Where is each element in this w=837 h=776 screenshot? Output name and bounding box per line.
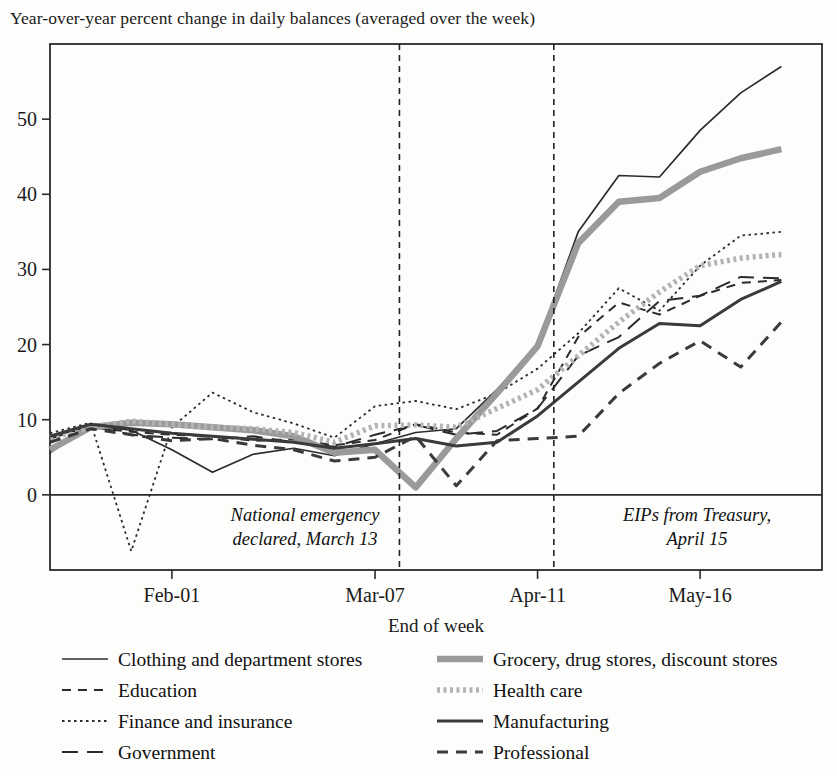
x-tick-label: Apr-11: [509, 584, 566, 607]
legend-label: Grocery, drug stores, discount stores: [493, 649, 778, 670]
event-lines-layer: [399, 44, 553, 570]
annotations-layer: National emergencydeclared, March 13EIPs…: [230, 505, 772, 549]
y-tick-label: 10: [17, 409, 37, 431]
annotation-line2: declared, March 13: [232, 529, 377, 549]
y-tick-label: 40: [17, 183, 37, 205]
series-line: [50, 232, 781, 551]
legend-label: Manufacturing: [493, 711, 609, 732]
legend-label: Health care: [493, 680, 582, 701]
y-tick-label: 30: [17, 258, 37, 280]
y-tick-label: 20: [17, 334, 37, 356]
legend-item[interactable]: Manufacturing: [437, 711, 609, 732]
legend-item[interactable]: Finance and insurance: [62, 711, 292, 732]
series-layer: [50, 67, 781, 552]
legend-label: Government: [118, 742, 216, 763]
legend-item[interactable]: Clothing and department stores: [62, 649, 362, 670]
legend-item[interactable]: Grocery, drug stores, discount stores: [437, 649, 778, 670]
legend-label: Education: [118, 680, 197, 701]
annotation-line1: EIPs from Treasury,: [622, 505, 771, 525]
y-tick-label: 0: [27, 484, 37, 506]
legend-item[interactable]: Health care: [437, 680, 582, 701]
x-tick-label: Mar-07: [345, 584, 405, 606]
x-tick-label: Feb-01: [144, 584, 201, 606]
plot-frame: [50, 44, 822, 570]
series-line: [50, 322, 781, 486]
line-chart: 01020304050Feb-01Mar-07Apr-11May-16End o…: [0, 0, 837, 776]
x-axis-label: End of week: [388, 615, 485, 636]
annotation-line2: April 15: [664, 529, 727, 549]
legend-item[interactable]: Education: [62, 680, 197, 701]
legend-label: Clothing and department stores: [118, 649, 362, 670]
legend-label: Finance and insurance: [118, 711, 292, 732]
legend-label: Professional: [493, 742, 590, 763]
x-tick-label: May-16: [668, 584, 731, 607]
series-line: [50, 280, 781, 445]
series-line: [50, 254, 781, 442]
chart-legend: Clothing and department storesEducationF…: [62, 649, 778, 763]
y-tick-label: 50: [17, 108, 37, 130]
chart-container: 01020304050Feb-01Mar-07Apr-11May-16End o…: [0, 0, 837, 776]
series-line: [50, 67, 781, 473]
legend-item[interactable]: Government: [62, 742, 216, 763]
annotation-line1: National emergency: [230, 505, 381, 525]
legend-item[interactable]: Professional: [437, 742, 590, 763]
